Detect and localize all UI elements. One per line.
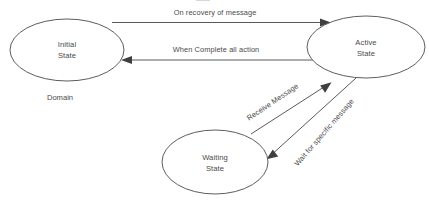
state-node-waiting[interactable]: Waiting State [162, 130, 268, 194]
state-diagram-svg: On recovery of message When Complete all… [0, 0, 429, 214]
state-node-active[interactable]: Active State [307, 16, 425, 78]
state-ellipse-active[interactable] [307, 16, 425, 78]
arrowhead-active-to-waiting [267, 150, 279, 160]
state-diagram-canvas: On recovery of message When Complete all… [0, 0, 429, 214]
state-label-active-line1: Active [355, 38, 376, 47]
state-label-initial-line1: Initial [58, 40, 77, 49]
transition-active-to-initial: When Complete all action [121, 45, 313, 64]
state-ellipse-initial[interactable] [10, 19, 124, 81]
arrowhead-waiting-to-active [320, 82, 331, 93]
transition-label-active-to-initial: When Complete all action [173, 45, 260, 54]
state-label-active-line2: State [357, 49, 375, 58]
state-node-initial[interactable]: Initial State [10, 19, 124, 81]
transition-label-initial-to-active: On recovery of message [174, 8, 257, 17]
transition-waiting-to-active: Receive Message [245, 81, 331, 134]
state-label-waiting-line1: Waiting [202, 153, 228, 162]
state-ellipse-waiting[interactable] [162, 130, 268, 194]
state-label-initial-line2: State [58, 51, 76, 60]
transition-label-waiting-to-active: Receive Message [245, 81, 300, 122]
state-label-waiting-line2: State [206, 164, 224, 173]
caption-domain: Domain [47, 93, 73, 102]
transition-initial-to-active: On recovery of message [112, 8, 331, 27]
